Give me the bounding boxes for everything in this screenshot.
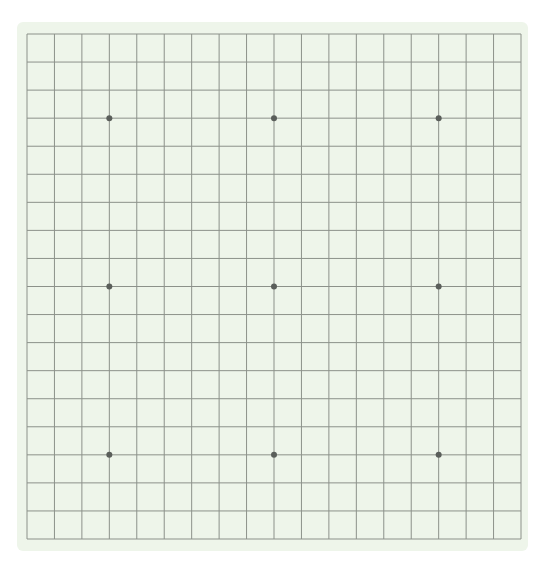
star-point-icon: [271, 284, 277, 290]
star-point-icon: [106, 284, 112, 290]
star-point-icon: [106, 115, 112, 121]
star-point-icon: [436, 284, 442, 290]
star-point-icon: [436, 452, 442, 458]
star-point-icon: [436, 115, 442, 121]
board-grid[interactable]: [0, 0, 546, 571]
star-point-icon: [271, 115, 277, 121]
star-point-icon: [271, 452, 277, 458]
star-point-icon: [106, 452, 112, 458]
